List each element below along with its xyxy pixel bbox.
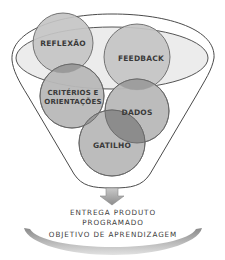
label-dados: DADOS [121, 108, 152, 117]
label-criterios-line2: ORIENTAÇÕES [44, 97, 101, 106]
funnel-diagram: REFLEXÃO FEEDBACK CRITÉRIOS E ORIENTAÇÕE… [0, 0, 225, 260]
label-feedback: FEEDBACK [118, 54, 165, 63]
label-reflexao: REFLEXÃO [40, 39, 86, 48]
label-criterios-line1: CRITÉRIOS E [47, 88, 98, 97]
output-line1: ENTREGA PRODUTO [70, 208, 156, 217]
output-line3: OBJETIVO DE APRENDIZAGEM [49, 230, 177, 239]
output-line2: PROGRAMADO [82, 218, 143, 227]
label-gatilho: GATILHO [93, 141, 131, 150]
down-arrow-icon [100, 188, 124, 205]
